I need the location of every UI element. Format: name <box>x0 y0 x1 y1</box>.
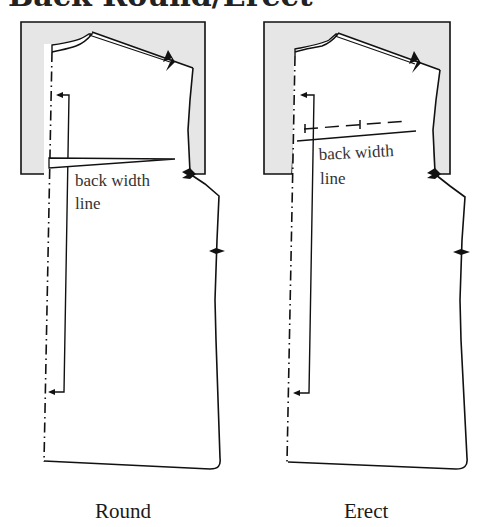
caption-round: Round <box>95 499 152 523</box>
panel-erect: back width line Erect <box>264 22 470 523</box>
panel-round: back width line Round <box>21 22 225 523</box>
line-label: line <box>75 194 101 213</box>
line-label: line <box>320 169 346 188</box>
back-width-label: back width <box>75 171 151 190</box>
pattern-diagram: back width line Round back width line Er… <box>0 0 488 527</box>
caption-erect: Erect <box>344 499 388 523</box>
back-width-label: back width <box>318 141 394 164</box>
